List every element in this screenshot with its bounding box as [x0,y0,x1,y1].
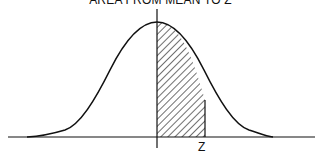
normal-curve-diagram [0,0,321,166]
normal-curve [27,22,273,137]
shaded-area [157,20,205,137]
z-label: Z [198,140,205,154]
